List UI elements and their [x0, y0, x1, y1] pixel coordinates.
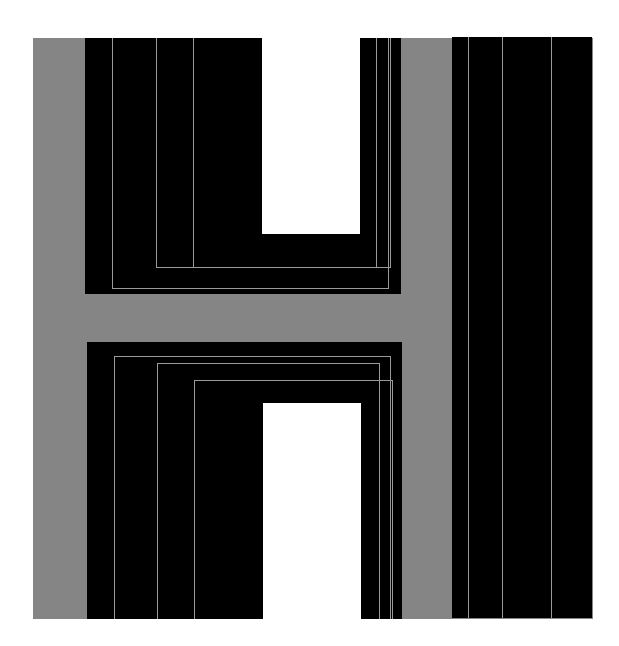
upper-line-v1 [112, 38, 113, 289]
lower-white-notch [263, 403, 361, 619]
upper-line-v3 [193, 38, 194, 268]
right-black-bar [452, 37, 592, 618]
lower-line-h3 [194, 380, 392, 381]
upper-white-notch [262, 38, 360, 234]
upper-line-v1r [388, 38, 389, 289]
lower-line-v1 [114, 356, 115, 619]
upper-line-h2 [156, 267, 391, 268]
upper-line-v2r [390, 38, 391, 268]
upper-line-v2 [156, 38, 157, 268]
upper-line-h1 [112, 288, 389, 289]
bar-line-2 [502, 37, 503, 618]
lower-line-v3 [194, 380, 195, 619]
bar-line-3 [551, 37, 552, 618]
lower-line-v2 [157, 363, 158, 619]
lower-line-v1r [390, 356, 391, 619]
artwork-canvas [0, 0, 619, 646]
lower-line-v3r [392, 380, 393, 619]
upper-line-v3r [376, 38, 377, 268]
lower-line-h1 [114, 356, 391, 357]
bar-line-1 [468, 37, 469, 618]
lower-line-h2 [157, 363, 379, 364]
lower-line-v2r [379, 363, 380, 619]
